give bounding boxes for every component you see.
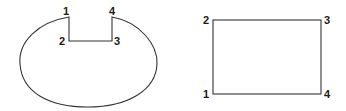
notched-oval-figure: 1 2 3 4 bbox=[20, 5, 157, 107]
rect-label-3: 3 bbox=[324, 14, 330, 26]
rectangle-figure: 2 3 1 4 bbox=[203, 14, 331, 100]
oval-label-2: 2 bbox=[59, 35, 65, 47]
oval-label-3: 3 bbox=[114, 35, 120, 47]
rectangle-outline bbox=[213, 20, 321, 94]
rect-label-1: 1 bbox=[203, 88, 209, 100]
notched-oval-outline bbox=[20, 17, 157, 107]
diagram-canvas: 1 2 3 4 2 3 1 4 bbox=[0, 0, 346, 111]
rect-label-2: 2 bbox=[203, 14, 209, 26]
oval-label-1: 1 bbox=[63, 5, 69, 17]
oval-label-4: 4 bbox=[109, 5, 116, 17]
rect-label-4: 4 bbox=[324, 88, 331, 100]
